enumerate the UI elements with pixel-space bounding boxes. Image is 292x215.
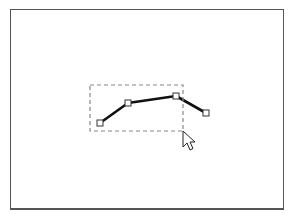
selection-marquee bbox=[90, 85, 183, 131]
vertex-handle-2[interactable] bbox=[125, 100, 131, 106]
polyline-shape[interactable] bbox=[100, 96, 206, 123]
vertex-handles[interactable] bbox=[97, 93, 209, 126]
vertex-handle-4[interactable] bbox=[203, 110, 209, 116]
drawing-canvas[interactable] bbox=[0, 0, 292, 215]
vertex-handle-3[interactable] bbox=[173, 93, 179, 99]
vertex-handle-1[interactable] bbox=[97, 120, 103, 126]
mouse-cursor-icon bbox=[183, 131, 195, 150]
